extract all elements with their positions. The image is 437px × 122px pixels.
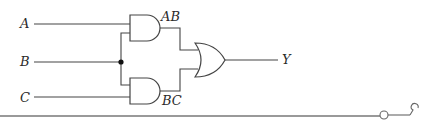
- and-gate-2: [130, 78, 160, 104]
- input-label-c: C: [20, 90, 30, 105]
- terminal-circle-icon: [380, 111, 388, 119]
- logic-circuit-diagram: A B C AB BC Y: [0, 0, 437, 122]
- input-label-a: A: [19, 16, 29, 31]
- and1-output-label: AB: [160, 9, 180, 24]
- and2-output-label: BC: [161, 93, 182, 108]
- and-gate-1: [130, 15, 160, 41]
- input-label-b: B: [19, 54, 30, 69]
- wire-bc: [160, 69, 198, 91]
- wire-b-fanout: [121, 33, 130, 85]
- junction-dot: [118, 59, 123, 64]
- switch-hook-icon: [410, 103, 418, 115]
- or-gate: [195, 43, 225, 77]
- wire-ab: [160, 28, 198, 50]
- output-label-y: Y: [282, 52, 292, 67]
